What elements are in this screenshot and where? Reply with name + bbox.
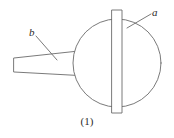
label-b: b xyxy=(29,27,35,38)
figure-container: a b (1) xyxy=(0,0,174,138)
figure-caption: (1) xyxy=(0,116,174,127)
vertical-bar xyxy=(112,10,122,113)
drawing-strokes xyxy=(14,10,161,113)
label-a: a xyxy=(152,7,158,18)
